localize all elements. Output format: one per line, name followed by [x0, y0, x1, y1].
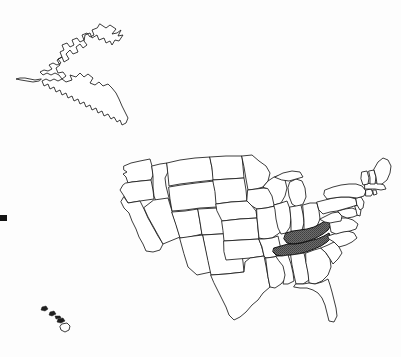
state-rhode-island[interactable] — [373, 190, 377, 195]
hawaii-island-oahu[interactable] — [49, 311, 56, 316]
state-michigan-lower[interactable] — [288, 179, 306, 207]
left-edge-dot-marker[interactable] — [0, 215, 7, 221]
state-alaska[interactable] — [40, 24, 128, 125]
state-maine[interactable] — [374, 158, 391, 184]
state-north-dakota[interactable] — [210, 156, 244, 180]
us-map-figure: United States map with highlighted state… — [0, 0, 401, 357]
inset-hawaii[interactable] — [41, 306, 70, 332]
inset-alaska[interactable] — [16, 24, 128, 125]
state-south-dakota[interactable] — [213, 178, 247, 204]
contiguous-states-group — [120, 155, 391, 322]
state-kansas[interactable] — [222, 218, 259, 241]
state-washington[interactable] — [123, 159, 153, 183]
hawaii-island-kauai[interactable] — [41, 306, 48, 311]
state-connecticut[interactable] — [366, 189, 373, 196]
hawaii-island-big-island[interactable] — [60, 323, 70, 332]
us-map-svg — [0, 0, 401, 357]
hawaii-island-maui[interactable] — [57, 318, 65, 323]
state-indiana[interactable] — [290, 205, 304, 232]
alaska-aleutian-chain — [16, 78, 41, 82]
state-wyoming[interactable] — [169, 181, 217, 211]
state-vermont[interactable] — [361, 171, 369, 185]
state-new-york[interactable] — [324, 184, 366, 199]
state-florida[interactable] — [294, 279, 337, 322]
